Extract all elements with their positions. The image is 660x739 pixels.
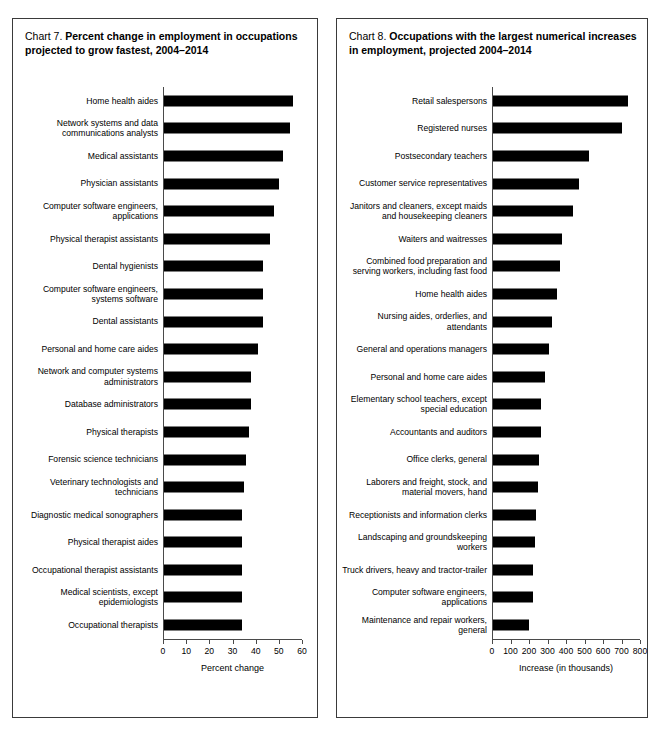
bar-category-label: Veterinary technologists and technicians — [13, 477, 163, 498]
bar-track — [492, 611, 647, 639]
bar — [163, 371, 251, 382]
chart-7-bar-rows: Home health aidesNetwork systems and dat… — [13, 87, 317, 639]
bar-category-label: Dental hygienists — [13, 261, 163, 271]
bar-row: Physical therapist aides — [13, 529, 317, 557]
x-axis-tick-label: 500 — [577, 646, 591, 656]
bar-track — [492, 391, 647, 419]
bar-track — [163, 446, 317, 474]
bar-track — [492, 335, 647, 363]
chart-8-panel: Chart 8. Occupations with the largest nu… — [336, 18, 648, 718]
bar — [492, 288, 557, 299]
bar — [163, 509, 242, 520]
bar — [492, 592, 533, 603]
x-axis-tick — [233, 640, 234, 644]
x-axis-tick — [603, 640, 604, 644]
x-axis-tick — [492, 640, 493, 644]
bar — [492, 316, 552, 327]
x-axis-tick — [302, 640, 303, 644]
bar-category-label: Personal and home care aides — [337, 372, 492, 382]
bar — [163, 261, 263, 272]
chart-7-title: Chart 7. Percent change in employment in… — [25, 30, 307, 57]
bar-track — [163, 556, 317, 584]
bar — [492, 426, 541, 437]
bar-track — [163, 473, 317, 501]
bar-track — [492, 87, 647, 115]
bar-track — [163, 142, 317, 170]
bar-category-label: Medical assistants — [13, 151, 163, 161]
bar-row: Network systems and data communications … — [13, 115, 317, 143]
bar-row: Network and computer systems administrat… — [13, 363, 317, 391]
bar-track — [163, 170, 317, 198]
x-axis-tick-label: 0 — [490, 646, 495, 656]
x-axis-tick-label: 50 — [274, 646, 284, 656]
bar-track — [492, 170, 647, 198]
bar-row: Occupational therapist assistants — [13, 556, 317, 584]
x-axis-tick — [209, 640, 210, 644]
charts-page: Chart 7. Percent change in employment in… — [0, 0, 660, 739]
chart-8-title-number: Chart 8. — [349, 30, 386, 42]
bar-track — [163, 280, 317, 308]
bar-category-label: Home health aides — [13, 96, 163, 106]
x-axis-tick-label: 60 — [297, 646, 307, 656]
chart-8-x-axis-title: Increase (in thousands) — [492, 663, 640, 673]
x-axis-tick-label: 30 — [228, 646, 238, 656]
bar-category-label: Home health aides — [337, 289, 492, 299]
bar — [163, 288, 263, 299]
bar-category-label: Diagnostic medical sonographers — [13, 510, 163, 520]
x-axis-tick-label: 20 — [205, 646, 215, 656]
bar-track — [492, 225, 647, 253]
bar-row: Computer software engineers, systems sof… — [13, 280, 317, 308]
bar — [492, 509, 536, 520]
bar-category-label: Nursing aides, orderlies, and attendants — [337, 311, 492, 332]
bar-row: Diagnostic medical sonographers — [13, 501, 317, 529]
bar-category-label: Physical therapist assistants — [13, 234, 163, 244]
x-axis-tick — [529, 640, 530, 644]
bar — [492, 95, 628, 106]
x-axis-tick — [585, 640, 586, 644]
x-axis-tick — [256, 640, 257, 644]
bar — [492, 150, 589, 161]
x-axis-tick — [279, 640, 280, 644]
bar — [492, 344, 549, 355]
bar — [163, 537, 242, 548]
bar-category-label: Personal and home care aides — [13, 344, 163, 354]
x-axis-tick — [622, 640, 623, 644]
bar — [163, 564, 242, 575]
bar-row: Medical scientists, except epidemiologis… — [13, 584, 317, 612]
chart-8-title-text: Occupations with the largest numerical i… — [349, 30, 637, 56]
bar-track — [163, 529, 317, 557]
bar-row: Personal and home care aides — [13, 335, 317, 363]
bar-category-label: General and operations managers — [337, 344, 492, 354]
bar-category-label: Waiters and waitresses — [337, 234, 492, 244]
x-axis-tick-label: 700 — [614, 646, 628, 656]
bar — [492, 620, 529, 631]
x-axis-tick — [186, 640, 187, 644]
bar-category-label: Occupational therapist assistants — [13, 565, 163, 575]
x-axis-tick-label: 200 — [522, 646, 536, 656]
bar — [492, 399, 541, 410]
chart-7-panel: Chart 7. Percent change in employment in… — [12, 18, 318, 718]
chart-8-title: Chart 8. Occupations with the largest nu… — [349, 30, 637, 57]
bar-track — [492, 446, 647, 474]
bar-track — [492, 556, 647, 584]
y-axis-line — [492, 87, 493, 639]
bar — [163, 316, 263, 327]
bar-track — [492, 473, 647, 501]
bar-track — [163, 308, 317, 336]
bar — [492, 564, 533, 575]
x-axis-tick — [640, 640, 641, 644]
x-axis-tick — [548, 640, 549, 644]
bar-row: Dental assistants — [13, 308, 317, 336]
bar — [492, 482, 538, 493]
bar — [163, 206, 274, 217]
bar-track — [163, 87, 317, 115]
bar — [163, 620, 242, 631]
bar-category-label: Database administrators — [13, 399, 163, 409]
bar — [492, 206, 573, 217]
bar — [163, 150, 283, 161]
bar-track — [492, 115, 647, 143]
bar — [163, 426, 249, 437]
bar-category-label: Retail salespersons — [337, 96, 492, 106]
bar-row: Dental hygienists — [13, 253, 317, 281]
x-axis-tick-label: 600 — [596, 646, 610, 656]
